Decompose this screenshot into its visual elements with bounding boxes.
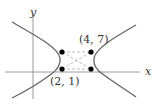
point-top-left	[59, 49, 64, 54]
point-label-4-7: (4, 7)	[79, 33, 109, 46]
y-axis-label: y	[29, 6, 37, 19]
dashed-rectangle	[62, 52, 91, 69]
x-axis-label: x	[145, 65, 152, 78]
point-bottom-left	[59, 66, 64, 71]
hyperbola-diagram: y x (4, 7) (2, 1)	[0, 0, 165, 104]
point-label-2-1: (2, 1)	[50, 75, 80, 88]
point-top-right	[88, 49, 93, 54]
point-bottom-right	[88, 66, 93, 71]
